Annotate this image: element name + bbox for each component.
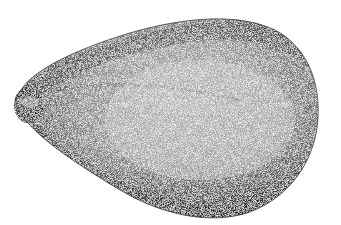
seed-body: [0, 0, 341, 225]
seed-illustration: [0, 0, 341, 225]
illustration-canvas: [0, 0, 341, 225]
